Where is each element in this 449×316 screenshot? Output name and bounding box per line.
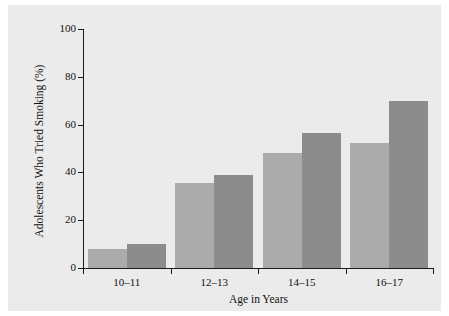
y-tick-label: 20: [46, 214, 76, 225]
chart-panel: 020406080100 10–1112–1314–1516–17 Age in…: [8, 5, 441, 311]
y-tick-label-wrap: 100: [38, 23, 76, 34]
y-tick-label-wrap: 0: [38, 262, 76, 273]
figure: 020406080100 10–1112–1314–1516–17 Age in…: [0, 0, 449, 316]
y-tick-label: 0: [46, 262, 76, 273]
x-tick-label: 10–11: [82, 276, 172, 288]
plot-area: [83, 29, 433, 268]
x-tick-label: 12–13: [169, 276, 259, 288]
x-tick-mark: [346, 269, 347, 274]
bar: [214, 175, 253, 268]
x-tick-mark: [171, 269, 172, 274]
x-tick-label: 14–15: [257, 276, 347, 288]
bar: [263, 153, 302, 268]
bar: [88, 249, 127, 268]
y-axis-label: Adolescents Who Tried Smoking (%): [33, 46, 45, 256]
y-tick-label: 80: [46, 71, 76, 82]
x-tick-mark: [258, 269, 259, 274]
y-tick-label: 60: [46, 119, 76, 130]
bar: [350, 143, 389, 268]
bar: [127, 244, 166, 268]
x-tick-mark: [433, 269, 434, 274]
y-tick-label: 40: [46, 166, 76, 177]
x-tick-label: 16–17: [344, 276, 434, 288]
bar: [175, 183, 214, 268]
x-tick-mark: [83, 269, 84, 274]
bar: [302, 133, 341, 268]
x-axis-label: Age in Years: [83, 293, 434, 305]
y-tick-label: 100: [46, 23, 76, 34]
bar: [389, 101, 428, 268]
